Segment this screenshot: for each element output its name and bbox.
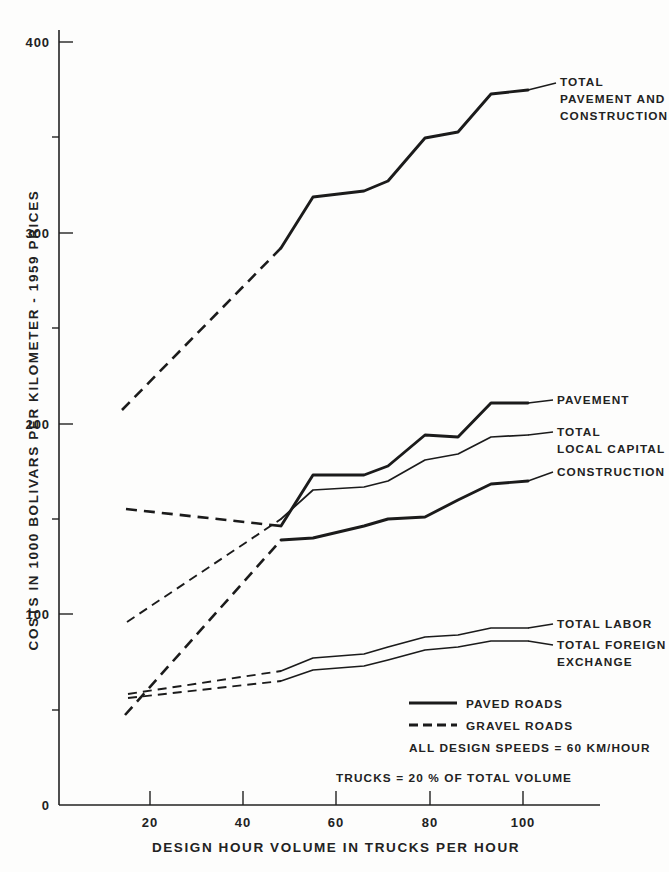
- chart-note-group: TRUCKS = 20 % OF TOTAL VOLUME: [336, 771, 572, 785]
- chart-figure: 400 300 200 100 0 20 40 60 80 100 DESIGN…: [0, 0, 669, 872]
- x-tick-label-100: 100: [511, 815, 535, 830]
- x-tick-label-60: 60: [328, 815, 344, 830]
- note-trucks-share: TRUCKS = 20 % OF TOTAL VOLUME: [336, 771, 572, 785]
- series-label-total-foreign-exchange-line2: EXCHANGE: [557, 655, 633, 669]
- x-axis-title: DESIGN HOUR VOLUME IN TRUCKS PER HOUR: [152, 840, 520, 855]
- series-pavement-gravel-path: [126, 509, 281, 526]
- series-pavement-paved-path: [281, 403, 528, 526]
- series-total-labor-gravel-path: [128, 671, 281, 694]
- series-total-labor-paved-path: [281, 628, 528, 671]
- legend-label-gravel-roads: GRAVEL ROADS: [466, 719, 573, 733]
- y-tick-label-400: 400: [26, 35, 50, 50]
- series-construction-leader: [528, 472, 553, 481]
- legend-note-design-speeds: ALL DESIGN SPEEDS = 60 KM/HOUR: [409, 741, 651, 755]
- x-tick-label-80: 80: [422, 815, 438, 830]
- series-total-foreign-exchange: TOTAL FOREIGN EXCHANGE: [128, 638, 666, 698]
- series-total-pavement-and-construction-leader: [528, 83, 556, 90]
- series-label-total-pavement-and-construction-line2: PAVEMENT AND: [560, 92, 665, 106]
- series-total-local-capital: TOTAL LOCAL CAPITAL: [127, 425, 665, 622]
- series-label-total-pavement-and-construction-line1: TOTAL: [560, 75, 604, 89]
- series-label-construction: CONSTRUCTION: [557, 465, 665, 479]
- series-total-pavement-and-construction-gravel-path: [122, 248, 281, 410]
- series-pavement-leader: [528, 400, 553, 403]
- series-label-total-local-capital-line1: TOTAL: [557, 425, 601, 439]
- series-total-pavement-and-construction-paved-path: [281, 90, 528, 248]
- series-total-pavement-and-construction: TOTAL PAVEMENT AND CONSTRUCTION: [122, 75, 668, 410]
- series-total-foreign-exchange-gravel-path: [128, 681, 281, 698]
- series-total-local-capital-paved-path: [281, 435, 528, 519]
- series-label-total-pavement-and-construction-line3: CONSTRUCTION: [560, 109, 668, 123]
- series-label-pavement: PAVEMENT: [557, 393, 630, 407]
- series-label-total-local-capital-line2: LOCAL CAPITAL: [557, 442, 665, 456]
- y-axis-title: COSTS IN 1000 BOLIVARS PER KILOMETER - 1…: [26, 190, 41, 651]
- legend-label-paved-roads: PAVED ROADS: [466, 697, 563, 711]
- series-total-local-capital-gravel-path: [127, 519, 281, 622]
- x-tick-label-40: 40: [235, 815, 251, 830]
- series-label-total-labor: TOTAL LABOR: [557, 617, 652, 631]
- series-total-local-capital-leader: [528, 432, 553, 435]
- line-chart-canvas: 400 300 200 100 0 20 40 60 80 100 DESIGN…: [0, 0, 669, 872]
- series-construction: CONSTRUCTION: [125, 465, 665, 715]
- series-label-total-foreign-exchange-line1: TOTAL FOREIGN: [557, 638, 666, 652]
- chart-legend: PAVED ROADS GRAVEL ROADS ALL DESIGN SPEE…: [409, 697, 651, 755]
- series-total-labor-leader: [528, 624, 553, 628]
- y-tick-label-0: 0: [42, 798, 50, 813]
- series-total-foreign-exchange-leader: [528, 641, 553, 645]
- x-tick-label-20: 20: [142, 815, 158, 830]
- series-pavement: PAVEMENT: [126, 393, 630, 526]
- series-total-foreign-exchange-paved-path: [281, 641, 528, 681]
